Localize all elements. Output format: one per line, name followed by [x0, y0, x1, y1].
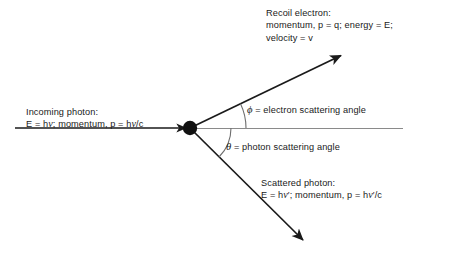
recoil-electron-line-3: velocity = v	[266, 32, 393, 44]
incoming-photon-momentum-suffix: /c	[136, 119, 143, 129]
recoil-electron-ray	[190, 56, 341, 129]
phi-angle-arc	[241, 104, 247, 128]
compton-scattering-diagram: Recoil electron: momentum, p = q; energy…	[0, 0, 452, 258]
scattered-photon-line-2: E = hν′; momentum, p = hν′/c	[261, 189, 382, 201]
incoming-photon-label: Incoming photon: E = hν; momentum, p = h…	[26, 106, 143, 131]
phi-angle-text: = electron scattering angle	[253, 105, 366, 115]
interaction-point-dot	[183, 121, 197, 135]
recoil-electron-label: Recoil electron: momentum, p = q; energy…	[266, 7, 393, 44]
scattered-photon-line-1: Scattered photon:	[261, 177, 382, 189]
incoming-photon-line-1: Incoming photon:	[26, 106, 143, 118]
recoil-electron-line-2: momentum, p = q; energy = E;	[266, 19, 393, 31]
scattered-photon-momentum-suffix: ′/c	[373, 190, 382, 200]
incoming-photon-energy-prefix: E = h	[26, 119, 48, 129]
scattered-photon-energy-prefix: E = h	[261, 190, 283, 200]
incoming-photon-line-2: E = hν; momentum, p = hν/c	[26, 118, 143, 130]
theta-angle-label: θ = photon scattering angle	[226, 141, 340, 153]
scattered-photon-label: Scattered photon: E = hν′; momentum, p =…	[261, 177, 382, 202]
recoil-electron-line-1: Recoil electron:	[266, 7, 393, 19]
theta-angle-text: = photon scattering angle	[231, 142, 340, 152]
incoming-photon-momentum-prefix: ; momentum, p = h	[53, 119, 132, 129]
phi-angle-label: ϕ = electron scattering angle	[247, 104, 366, 116]
scattered-photon-momentum-prefix: ′; momentum, p = h	[288, 190, 368, 200]
